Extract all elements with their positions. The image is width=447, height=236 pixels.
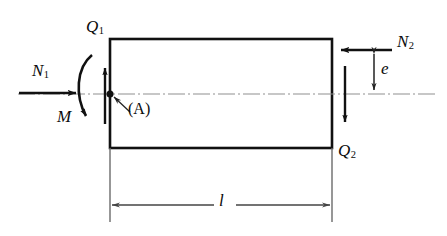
moment-m-arc [79,55,92,116]
label-n1: N1 [32,62,49,80]
label-q2: Q2 [338,142,356,160]
label-n2: N2 [397,33,414,51]
label-length-l: l [219,192,224,209]
label-eccentricity-e: e [381,60,389,77]
label-point-a: (A) [128,101,150,117]
point-a-marker [107,91,114,98]
label-q1: Q1 [86,18,104,36]
label-moment-m: M [57,108,71,125]
